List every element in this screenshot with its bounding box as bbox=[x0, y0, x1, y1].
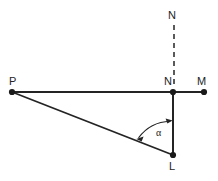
point-marker-n bbox=[170, 89, 176, 95]
angle-arc-arrowhead-end bbox=[166, 119, 173, 124]
diagram-canvas bbox=[0, 0, 218, 181]
angle-label-alpha: α bbox=[156, 128, 161, 138]
point-label-l: L bbox=[169, 161, 175, 172]
point-marker-p bbox=[9, 89, 15, 95]
point-marker-l bbox=[170, 152, 176, 158]
geometry-diagram: N P N M L α bbox=[0, 0, 218, 181]
segment-p-l bbox=[12, 92, 173, 155]
point-label-m: M bbox=[197, 76, 206, 87]
point-marker-m bbox=[201, 89, 207, 95]
point-label-p: P bbox=[9, 76, 16, 87]
angle-arc-alpha bbox=[139, 121, 171, 138]
point-label-n-top: N bbox=[168, 10, 176, 21]
point-label-n: N bbox=[164, 76, 172, 87]
